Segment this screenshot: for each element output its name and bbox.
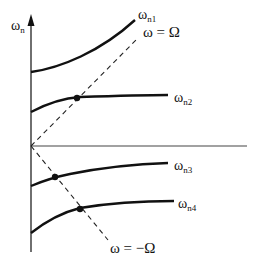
y-axis-label-sub: n <box>20 25 25 35</box>
y-axis-label: ωn <box>11 17 25 35</box>
label-n4-sub: n4 <box>187 203 196 213</box>
intersection-point-n4 <box>77 206 83 212</box>
curve-n3 <box>31 163 168 186</box>
y-axis-label-main: ω <box>11 18 20 33</box>
label-curve-n3: ωn3 <box>174 157 192 175</box>
curve-n1 <box>31 20 135 72</box>
frequency-diagram: ωn ωn1 ωn2 ωn3 ωn4 ω = Ω ω = −Ω <box>0 0 258 262</box>
label-n1-main: ω <box>138 7 147 22</box>
diagram-canvas <box>0 0 258 262</box>
label-curve-n2: ωn2 <box>174 89 192 107</box>
label-curve-n1: ωn1 <box>138 6 156 24</box>
label-n2-sub: n2 <box>183 97 192 107</box>
intersection-point-n3 <box>52 174 58 180</box>
y-axis-arrow-icon <box>28 14 35 26</box>
label-n2-main: ω <box>174 90 183 105</box>
label-curve-n4: ωn4 <box>178 195 196 213</box>
intersection-point-n2 <box>74 95 80 101</box>
curve-n4 <box>31 201 174 233</box>
label-omega-plus: ω = Ω <box>143 25 180 40</box>
label-omega-minus: ω = −Ω <box>110 241 155 256</box>
label-n4-main: ω <box>178 196 187 211</box>
label-n3-sub: n3 <box>183 165 192 175</box>
label-n3-main: ω <box>174 158 183 173</box>
curve-n2 <box>31 95 168 112</box>
label-n1-sub: n1 <box>147 14 156 24</box>
